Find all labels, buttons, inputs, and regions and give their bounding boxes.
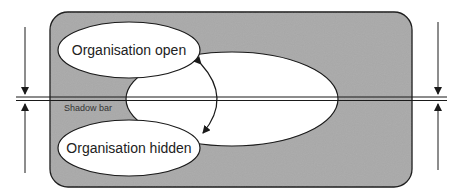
shadow-bar-diagram: Organisation open Organisation hidden Sh… (0, 0, 456, 195)
shadow-bar-label: Shadow bar (64, 103, 112, 113)
organisation-open-label: Organisation open (72, 42, 186, 58)
organisation-hidden-label: Organisation hidden (66, 140, 191, 156)
